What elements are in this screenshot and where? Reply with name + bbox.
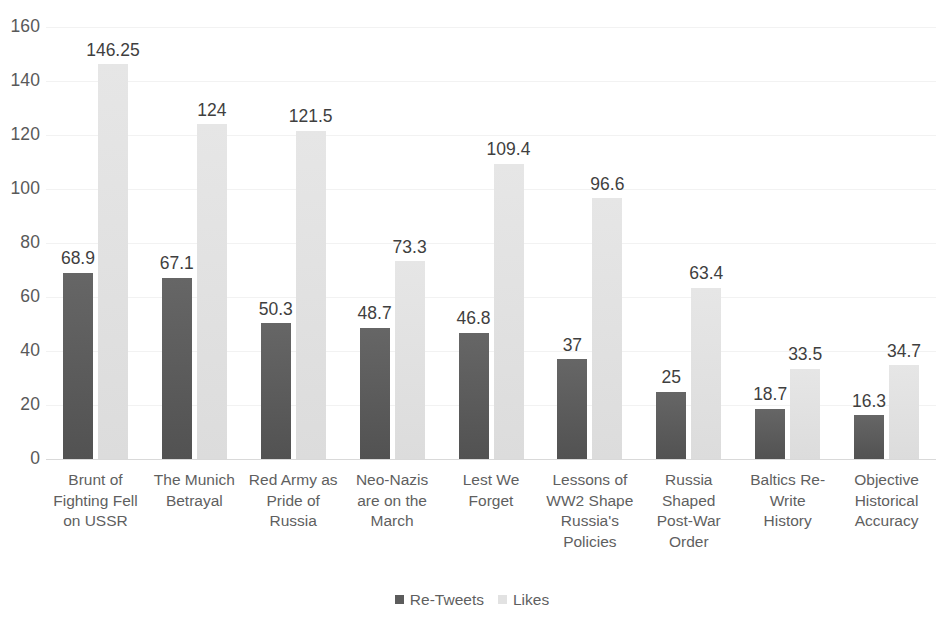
category-label: Baltics Re-WriteHistory — [738, 470, 837, 532]
category-label-line: Pride of — [244, 491, 343, 512]
category-label-line: on USSR — [46, 511, 145, 532]
bar-chart: 160140120100806040200 68.9146.2567.11245… — [0, 0, 944, 629]
category-label-line: Neo-Nazis — [343, 470, 442, 491]
category-label-line: The Munich — [145, 470, 244, 491]
category-label-line: Accuracy — [837, 511, 936, 532]
bar-value-label: 124 — [182, 102, 242, 120]
y-axis-tick-label: 40 — [0, 342, 40, 360]
category-label: Brunt ofFighting Fellon USSR — [46, 470, 145, 532]
category-label-line: Objective — [837, 470, 936, 491]
bar-retweets[interactable] — [854, 415, 884, 459]
y-axis-tick-label: 80 — [0, 234, 40, 252]
axis-baseline — [46, 459, 936, 460]
bar-cluster: 48.773.3 — [360, 27, 425, 459]
y-axis: 160140120100806040200 — [0, 0, 40, 629]
category-label: The MunichBetrayal — [145, 470, 244, 511]
bar-cluster: 50.3121.5 — [261, 27, 326, 459]
category-label-line: are on the — [343, 491, 442, 512]
category-label-line: Fighting Fell — [46, 491, 145, 512]
category-label-line: Brunt of — [46, 470, 145, 491]
y-axis-tick-label: 160 — [0, 18, 40, 36]
bar-value-label: 96.6 — [577, 176, 637, 194]
bar-value-label: 33.5 — [775, 346, 835, 364]
category-label-line: Order — [639, 532, 738, 553]
bar-cluster: 67.1124 — [162, 27, 227, 459]
bar-retweets[interactable] — [557, 359, 587, 459]
y-axis-tick-label: 0 — [0, 450, 40, 468]
category-label-line: Shaped — [639, 491, 738, 512]
category-label-line: WW2 Shape — [540, 491, 639, 512]
category-label-line: Baltics Re- — [738, 470, 837, 491]
bar-retweets[interactable] — [459, 333, 489, 459]
y-axis-tick-label: 60 — [0, 288, 40, 306]
bar-retweets[interactable] — [162, 278, 192, 459]
category-label-line: Lest We — [442, 470, 541, 491]
bar-value-label: 121.5 — [281, 108, 341, 126]
bar-likes[interactable] — [296, 131, 326, 459]
category-label-line: Russia — [639, 470, 738, 491]
bar-likes[interactable] — [197, 124, 227, 459]
category-label-line: Lessons of — [540, 470, 639, 491]
bar-value-label: 63.4 — [676, 265, 736, 283]
legend-label: Likes — [513, 592, 549, 608]
category-label-line: Post-War — [639, 511, 738, 532]
y-axis-tick-label: 100 — [0, 180, 40, 198]
category-label-line: Russia's — [540, 511, 639, 532]
bar-retweets[interactable] — [261, 323, 291, 459]
bar-likes[interactable] — [592, 198, 622, 459]
category-label-line: Betrayal — [145, 491, 244, 512]
bar-retweets[interactable] — [360, 328, 390, 459]
legend-item[interactable]: Re-Tweets — [395, 592, 484, 608]
bar-value-label: 109.4 — [479, 141, 539, 159]
bar-clusters: 68.9146.2567.112450.3121.548.773.346.810… — [46, 27, 936, 459]
category-label-line: Write — [738, 491, 837, 512]
category-label-line: Historical — [837, 491, 936, 512]
bar-likes[interactable] — [494, 164, 524, 459]
legend-label: Re-Tweets — [410, 592, 484, 608]
bar-value-label: 34.7 — [874, 343, 934, 361]
category-label-line: Forget — [442, 491, 541, 512]
bar-likes[interactable] — [790, 369, 820, 459]
legend-swatch-icon — [498, 595, 507, 604]
bar-likes[interactable] — [889, 365, 919, 459]
category-label-line: Russia — [244, 511, 343, 532]
category-label-line: March — [343, 511, 442, 532]
bar-value-label: 146.25 — [83, 42, 143, 60]
category-label-line: History — [738, 511, 837, 532]
y-axis-tick-label: 120 — [0, 126, 40, 144]
category-label-line: Red Army as — [244, 470, 343, 491]
category-axis-labels: Brunt ofFighting Fellon USSRThe MunichBe… — [46, 470, 936, 575]
bar-likes[interactable] — [395, 261, 425, 459]
category-label: Lessons ofWW2 ShapeRussia'sPolicies — [540, 470, 639, 552]
bar-cluster: 68.9146.25 — [63, 27, 128, 459]
category-label: Lest WeForget — [442, 470, 541, 511]
bar-value-label: 73.3 — [380, 239, 440, 257]
bar-likes[interactable] — [98, 64, 128, 459]
bar-cluster: 16.334.7 — [854, 27, 919, 459]
category-label: RussiaShapedPost-WarOrder — [639, 470, 738, 552]
bar-retweets[interactable] — [656, 392, 686, 460]
category-label-line: Policies — [540, 532, 639, 553]
chart-legend: Re-TweetsLikes — [0, 592, 944, 608]
bar-retweets[interactable] — [755, 409, 785, 459]
y-axis-tick-label: 20 — [0, 396, 40, 414]
bar-cluster: 18.733.5 — [755, 27, 820, 459]
y-axis-tick-label: 140 — [0, 72, 40, 90]
category-label: Neo-Nazisare on theMarch — [343, 470, 442, 532]
legend-swatch-icon — [395, 595, 404, 604]
bar-cluster: 2563.4 — [656, 27, 721, 459]
bar-cluster: 3796.6 — [557, 27, 622, 459]
bar-cluster: 46.8109.4 — [459, 27, 524, 459]
bar-retweets[interactable] — [63, 273, 93, 459]
bar-likes[interactable] — [691, 288, 721, 459]
category-label: ObjectiveHistoricalAccuracy — [837, 470, 936, 532]
legend-item[interactable]: Likes — [498, 592, 549, 608]
category-label: Red Army asPride ofRussia — [244, 470, 343, 532]
